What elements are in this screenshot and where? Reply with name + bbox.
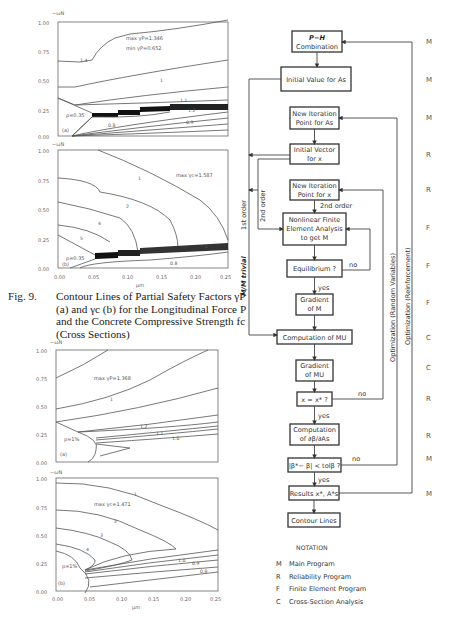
svg-text:0.05: 0.05 [88,274,99,280]
svg-text:Gradient: Gradient [300,362,329,370]
y-axis-label: −ωN [50,340,62,345]
svg-text:2: 2 [126,204,129,209]
svg-text:1.2: 1.2 [188,108,195,113]
svg-text:0.75: 0.75 [38,178,49,184]
svg-text:M: M [426,455,432,463]
svg-text:4: 4 [98,221,101,226]
svg-text:1st order: 1st order [240,200,248,230]
svg-text:2: 2 [114,519,117,524]
x-axis-label: μm [132,604,140,611]
panel-label: (b) [58,580,65,586]
svg-text:Computation of MU: Computation of MU [283,334,347,342]
svg-text:4: 4 [86,547,89,552]
svg-text:Contour Lines: Contour Lines [291,517,337,525]
svg-text:x = x* ?: x = x* ? [301,396,328,404]
contour-chart-b-rho1: −ωN 1.00 0.75 0.50 0.25 0.00 0.00 0.05 0… [0,470,240,627]
svg-text:no: no [352,455,360,463]
svg-text:Initial Vector: Initial Vector [294,146,336,154]
svg-text:0.8: 0.8 [200,569,207,574]
caption-line: Contour Lines of Partial Safety Factors … [56,290,256,303]
svg-text:0.8: 0.8 [170,261,177,266]
svg-text:Point for As: Point for As [296,119,334,127]
svg-text:yes: yes [318,284,330,292]
max-annotation: max γc=1.471 [94,501,131,508]
svg-text:Optimization (Reinforcement): Optimization (Reinforcement) [404,247,412,345]
svg-text:P−H: P−H [309,34,325,42]
svg-text:0.25: 0.25 [36,432,47,438]
algorithm-flowchart: P−H Combination Initial Value for As New… [240,0,453,627]
svg-text:R: R [426,395,431,403]
svg-text:Reliability Program: Reliability Program [289,573,351,581]
svg-text:F: F [426,299,430,307]
min-annotation: min γP=0.652 [126,45,162,52]
svg-text:0.9: 0.9 [186,120,193,125]
svg-text:1.4: 1.4 [80,58,87,63]
max-annotation: max γP=1.346 [126,35,163,42]
svg-text:0.00: 0.00 [36,460,47,466]
svg-text:Computation: Computation [293,426,336,434]
max-annotation: max γP=1.368 [94,375,131,382]
contour-chart-a-rho035: −ωN 1.00 0.75 0.50 0.25 0.00 1.4 1 1.1 1… [0,0,240,140]
svg-text:Cross-Section Analysis: Cross-Section Analysis [289,598,364,606]
svg-text:0.25: 0.25 [36,561,47,567]
svg-text:F: F [276,585,280,593]
svg-text:M: M [426,114,432,122]
svg-text:0.15: 0.15 [156,274,167,280]
svg-text:0.50: 0.50 [38,207,49,213]
svg-text:0.8: 0.8 [108,123,115,128]
svg-text:Nonlinear Finite: Nonlinear Finite [289,216,341,224]
caption-line: (a) and γc (b) for the Longitudinal Forc… [56,303,256,316]
rho-label: ρ=1% [62,563,78,570]
svg-text:M/M trivial: M/M trivial [240,256,248,296]
svg-text:Finite Element Program: Finite Element Program [289,585,366,593]
panel-label: (a) [62,127,69,133]
y-axis-label: −ωN [52,10,64,16]
svg-text:1: 1 [110,397,113,402]
svg-text:Combination: Combination [296,43,338,51]
svg-text:0.50: 0.50 [36,533,47,539]
max-annotation: max γc=1.587 [176,172,213,179]
svg-text:Element Analysis: Element Analysis [286,225,343,233]
svg-text:R: R [426,432,431,440]
svg-text:3: 3 [100,533,103,538]
svg-text:Initial Value for As: Initial Value for As [286,76,346,84]
svg-text:0.9: 0.9 [192,561,199,566]
svg-text:M: M [426,76,432,84]
svg-text:0.15: 0.15 [148,596,159,602]
svg-text:0.50: 0.50 [38,78,49,84]
svg-text:0.25: 0.25 [38,237,49,243]
svg-text:M: M [276,560,282,568]
svg-text:Main Program: Main Program [289,560,335,568]
svg-text:to get M: to get M [301,234,329,242]
svg-text:no: no [349,261,357,269]
svg-text:0.75: 0.75 [36,505,47,511]
svg-text:0.00: 0.00 [54,274,65,280]
svg-text:New Iteration: New Iteration [292,182,336,190]
y-axis-label: −ωN [52,141,64,147]
svg-text:F: F [426,262,430,270]
svg-text:Optimization (Random Variables: Optimization (Random Variables) [389,253,397,362]
svg-text:1.00: 1.00 [38,148,49,154]
svg-text:M: M [426,490,432,498]
svg-text:F: F [426,224,430,232]
svg-text:0.00: 0.00 [38,266,49,272]
svg-text:1.1: 1.1 [180,98,187,103]
svg-text:0.05: 0.05 [84,596,95,602]
svg-text:of MU: of MU [305,371,324,379]
svg-text:R: R [426,151,431,159]
svg-text:of M: of M [307,305,321,313]
rho-label: ρ=1% [64,436,80,443]
svg-text:1: 1 [138,176,141,181]
svg-text:Equilibrium ?: Equilibrium ? [293,265,336,273]
svg-text:0.00: 0.00 [52,596,63,602]
svg-text:0.20: 0.20 [190,274,201,280]
svg-text:1.00: 1.00 [36,476,47,482]
svg-text:1: 1 [205,244,208,249]
rho-label: ρ=0.35 [66,112,85,119]
svg-text:for x: for x [307,155,322,163]
svg-text:yes: yes [318,476,330,484]
svg-text:0.20: 0.20 [180,596,191,602]
figure-number: Fig. 9. [8,290,48,303]
svg-text:Results x*, A*s: Results x*, A*s [290,490,339,498]
svg-text:C: C [426,364,431,372]
